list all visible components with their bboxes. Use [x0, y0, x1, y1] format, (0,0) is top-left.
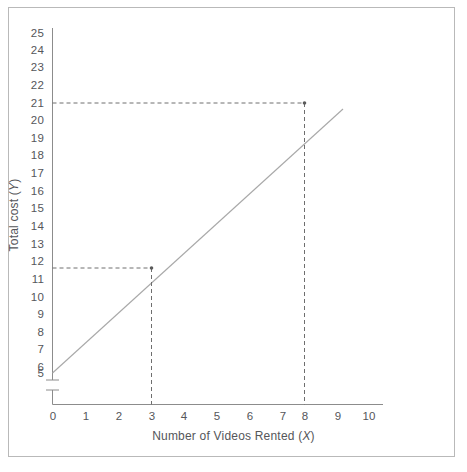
y-tick-label: 10	[20, 291, 44, 303]
data-point-8-21	[303, 101, 307, 105]
x-tick-label: 4	[172, 410, 196, 422]
y-tick-label: 23	[20, 61, 44, 73]
cost-line	[53, 109, 344, 373]
x-axis-title-variable: X	[302, 429, 310, 443]
x-tick-label: 5	[205, 410, 229, 422]
y-tick-label: 21	[20, 97, 44, 109]
x-tick-label: 3	[140, 410, 164, 422]
x-tick-label: 9	[326, 410, 350, 422]
x-tick-label: 7	[271, 410, 295, 422]
x-tick-label: 0	[41, 410, 65, 422]
y-tick-label: 22	[20, 79, 44, 91]
y-axis-title-text: Total cost	[7, 199, 21, 252]
x-tick-label: 6	[238, 410, 262, 422]
y-tick-label: 19	[20, 132, 44, 144]
y-axis-title-variable: Y	[7, 183, 21, 191]
y-tick-label: 20	[20, 114, 44, 126]
y-axis-title: Total cost (Y)	[7, 179, 21, 252]
data-point-3-11	[150, 266, 154, 270]
x-tick-label: 8	[293, 410, 317, 422]
y-axis-title-wrap: Total cost (Y)	[4, 150, 24, 280]
x-axis-title-text: Number of Videos Rented	[152, 429, 294, 443]
x-tick-label: 10	[357, 410, 381, 422]
x-axis-title: Number of Videos Rented (X)	[0, 429, 467, 443]
y-axis-title-paren-open: (	[7, 191, 21, 199]
x-axis-title-paren-close: )	[311, 429, 315, 443]
y-tick-label: 9	[20, 308, 44, 320]
x-tick-label: 2	[107, 410, 131, 422]
y-tick-label: 24	[20, 44, 44, 56]
y-tick-label: 8	[20, 326, 44, 338]
chart-figure: 25 24 23 22 21 20 19 18 17 16 15 14 13 1…	[0, 0, 467, 472]
chart-plot-area	[0, 0, 467, 472]
y-axis-title-paren-close: )	[7, 179, 21, 183]
x-tick-label: 1	[74, 410, 98, 422]
y-tick-label: 7	[20, 343, 44, 355]
y-tick-label: 25	[20, 27, 44, 39]
y-tick-label: 5	[20, 367, 44, 379]
